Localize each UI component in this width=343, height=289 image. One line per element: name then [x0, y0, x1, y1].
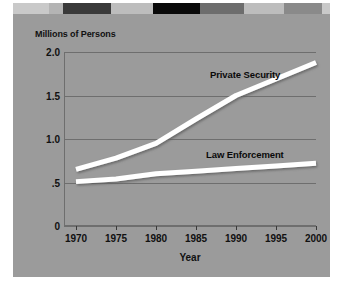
x-axis-title: Year: [64, 252, 316, 263]
y-axis-title: Millions of Persons: [35, 29, 116, 39]
x-axis-tick-label: 1985: [185, 233, 207, 244]
y-axis-tick-label: 2.0: [46, 47, 60, 58]
x-axis-tick-mark: [116, 226, 117, 230]
y-axis-tick-label: 1.0: [46, 134, 60, 145]
decorative-band-segment: [200, 3, 244, 14]
decorative-band-segment: [284, 3, 322, 14]
x-axis-tick-label: 2000: [305, 233, 327, 244]
x-axis-tick-label: 1970: [65, 233, 87, 244]
x-axis-tick-mark: [236, 226, 237, 230]
x-axis-tick-labels: 1970197519801985199019952000: [64, 233, 316, 247]
y-axis-tick-label: .5: [52, 177, 60, 188]
y-axis-tick-labels: 2.01.51.0.50: [27, 52, 60, 226]
x-axis-tick-label: 1980: [145, 233, 167, 244]
x-axis-tick-mark: [276, 226, 277, 230]
figure-panel: Millions of Persons 2.01.51.0.50 Private…: [13, 14, 330, 277]
x-axis-tick-mark: [316, 226, 317, 230]
decorative-band-segment: [49, 3, 63, 14]
x-axis-tick-mark: [76, 226, 77, 230]
x-axis-tick-mark: [196, 226, 197, 230]
plot-area: Private Security Law Enforcement: [64, 52, 316, 226]
series-label-law-enforcement: Law Enforcement: [206, 149, 284, 160]
x-axis-tick-label: 1990: [225, 233, 247, 244]
decorative-band-segment: [13, 3, 49, 14]
x-axis-tick-mark: [156, 226, 157, 230]
series-line: [76, 163, 316, 181]
decorative-band-segment: [244, 3, 284, 14]
decorative-band-segment: [111, 3, 153, 14]
x-axis-tick-marks: [64, 226, 316, 231]
decorative-band-segment: [322, 3, 330, 14]
y-axis-tick-label: 1.5: [46, 90, 60, 101]
chart-page: Millions of Persons 2.01.51.0.50 Private…: [0, 0, 343, 289]
series-label-private-security: Private Security: [210, 69, 280, 80]
top-decorative-band: [13, 3, 330, 14]
decorative-band-segment: [63, 3, 111, 14]
x-axis-tick-label: 1995: [265, 233, 287, 244]
decorative-band-segment: [153, 3, 200, 14]
x-axis-tick-label: 1975: [105, 233, 127, 244]
y-axis-tick-label: 0: [54, 221, 60, 232]
